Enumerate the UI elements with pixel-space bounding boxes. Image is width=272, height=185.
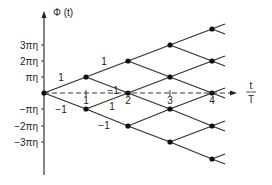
node <box>83 74 88 79</box>
edge-label: −1 <box>98 120 110 131</box>
node <box>209 123 214 128</box>
x-tick-label: 1 <box>83 95 89 106</box>
node <box>83 106 88 111</box>
node <box>167 74 172 79</box>
x-axis-label-numerator: t <box>250 80 253 91</box>
x-axis-arrow-icon <box>230 91 237 96</box>
y-tick-label: 2πη <box>20 56 38 67</box>
x-tick-label: 3 <box>167 95 173 106</box>
edge-label: 1 <box>58 72 64 83</box>
phase-trellis-diagram: Φ (t) 3πη 2πη πη −πη −2πη −3πη t T 1 2 3… <box>0 0 272 185</box>
edge-label: 1 <box>101 56 107 67</box>
trellis-nodes <box>41 26 214 161</box>
node <box>167 106 172 111</box>
node <box>41 90 46 95</box>
x-axis-label-denominator: T <box>248 94 254 105</box>
y-tick-label: −3πη <box>14 137 38 148</box>
node <box>209 58 214 63</box>
node <box>167 139 172 144</box>
node <box>209 26 214 31</box>
node <box>209 156 214 161</box>
node <box>209 90 214 95</box>
x-tick-label: 4 <box>209 95 215 106</box>
node <box>125 123 130 128</box>
node <box>125 58 130 63</box>
x-tick-label: 2 <box>125 95 131 106</box>
node <box>125 90 130 95</box>
x-axis-label: t T <box>246 80 256 105</box>
y-axis-arrow-icon <box>42 11 47 18</box>
node <box>167 42 172 47</box>
y-tick-label: −πη <box>20 104 38 115</box>
edge-label: 1 <box>109 101 115 112</box>
y-tick-label: −2πη <box>14 121 38 132</box>
edge-label: −1 <box>107 85 119 96</box>
edge-label: −1 <box>55 104 67 115</box>
y-axis-label: Φ (t) <box>53 7 73 18</box>
y-tick-label: 3πη <box>20 40 38 51</box>
y-tick-label: πη <box>26 72 38 83</box>
trellis-edges <box>44 24 225 164</box>
